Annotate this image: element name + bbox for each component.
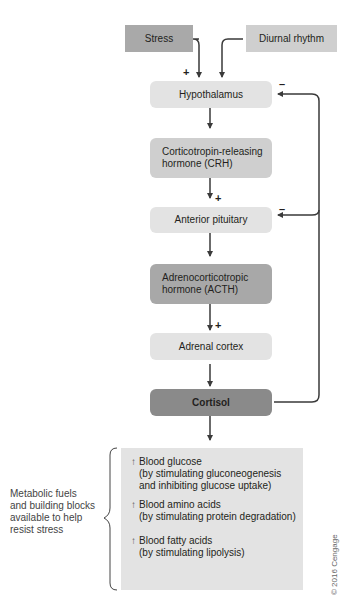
copyright-notice: © 2016 Cengage (330, 534, 339, 595)
stress-arrow (193, 39, 199, 77)
acth-box: Adrenocorticotropic hormone (ACTH) (150, 264, 272, 304)
crh-label-line1: Corticotropin-releasing (162, 146, 263, 158)
stress-box: Stress (125, 25, 193, 52)
hypothalamus-box: Hypothalamus (150, 81, 272, 108)
caption-line: and building blocks (10, 500, 95, 512)
effect-title: Blood fatty acids (139, 535, 245, 547)
cortisol-label: Cortisol (192, 397, 230, 409)
acth-label-line1: Adrenocorticotropic (162, 272, 248, 284)
effect-title: Blood amino acids (139, 499, 296, 511)
effects-box: ↑ Blood glucose (by stimulating gluconeo… (121, 448, 303, 590)
effect-blood-fatty-acids: ↑ Blood fatty acids (by stimulating lipo… (131, 535, 303, 559)
effect-detail: (by stimulating gluconeogenesis (139, 468, 281, 480)
diurnal-rhythm-box: Diurnal rhythm (246, 25, 337, 52)
effect-detail: (by stimulating lipolysis) (139, 547, 245, 559)
anterior-pituitary-label: Anterior pituitary (175, 214, 248, 226)
crh-label-line2: hormone (CRH) (162, 158, 263, 170)
diurnal-rhythm-label: Diurnal rhythm (259, 33, 324, 45)
caption-line: Metabolic fuels (10, 488, 95, 500)
crh-box: Corticotropin-releasing hormone (CRH) (150, 138, 272, 178)
pituitary-minus-sign: – (279, 204, 285, 215)
increase-arrow-icon: ↑ (131, 535, 139, 559)
adrenal-cortex-box: Adrenal cortex (150, 333, 272, 360)
crh-plus-sign: + (215, 193, 221, 204)
hypothalamus-label: Hypothalamus (179, 89, 243, 101)
increase-arrow-icon: ↑ (131, 499, 139, 523)
caption-line: resist stress (10, 524, 95, 536)
adrenal-cortex-label: Adrenal cortex (179, 341, 243, 353)
stress-label: Stress (145, 33, 173, 45)
cortisol-box: Cortisol (150, 389, 272, 416)
effect-title: Blood glucose (139, 456, 281, 468)
metabolic-fuels-caption: Metabolic fuels and building blocks avai… (10, 488, 95, 536)
acth-plus-sign: + (215, 320, 221, 331)
feedback-line (274, 94, 319, 402)
caption-line: available to help (10, 512, 95, 524)
effect-detail: (by stimulating protein degradation) (139, 511, 296, 523)
anterior-pituitary-box: Anterior pituitary (150, 207, 272, 233)
effect-blood-amino-acids: ↑ Blood amino acids (by stimulating prot… (131, 499, 303, 523)
diurnal-arrow (222, 39, 243, 77)
stress-plus-sign: + (183, 67, 189, 78)
hypothalamus-minus-sign: – (279, 79, 285, 90)
increase-arrow-icon: ↑ (131, 456, 139, 492)
effect-detail: and inhibiting glucose uptake) (139, 480, 281, 492)
brace (104, 448, 117, 590)
acth-label-line2: hormone (ACTH) (162, 284, 248, 296)
effect-blood-glucose: ↑ Blood glucose (by stimulating gluconeo… (131, 456, 303, 492)
